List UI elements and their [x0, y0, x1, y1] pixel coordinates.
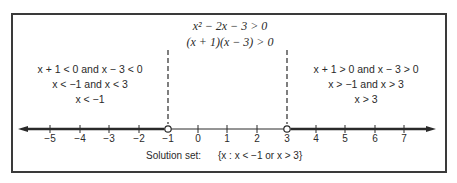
tick-label: 1	[224, 133, 230, 144]
solution-set-label: Solution set:	[146, 149, 201, 162]
tick-label: 7	[401, 133, 407, 144]
tick-label: 0	[195, 133, 201, 144]
arrow-left-icon	[18, 126, 28, 132]
open-point-3	[284, 126, 290, 132]
tick-label: 6	[372, 133, 378, 144]
tick-label: −2	[133, 133, 144, 144]
solution-set-value: {x : x < −1 or x > 3}	[218, 149, 302, 162]
tick-label: −4	[74, 133, 85, 144]
tick-label: 2	[254, 133, 260, 144]
arrow-right-icon	[426, 126, 436, 132]
tick-label: −3	[103, 133, 114, 144]
tick-label: 4	[313, 133, 319, 144]
tick-label: 5	[342, 133, 348, 144]
tick-label: −5	[44, 133, 55, 144]
tick-label: 3	[284, 133, 290, 144]
open-point-minus-1	[165, 126, 171, 132]
tick-label: −1	[162, 133, 173, 144]
